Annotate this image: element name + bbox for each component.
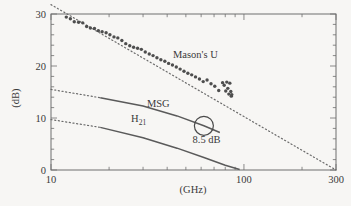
data-point <box>81 21 84 24</box>
data-point <box>120 39 123 42</box>
data-point <box>194 75 197 78</box>
data-point <box>229 90 232 93</box>
data-point <box>73 20 76 23</box>
data-point <box>116 36 119 39</box>
data-point <box>140 48 143 51</box>
data-point <box>205 78 208 81</box>
chart-figure: 10100300 0102030 (GHz) (dB) Mason's UMSG… <box>0 0 351 206</box>
data-point <box>132 46 135 49</box>
data-point <box>202 80 205 83</box>
x-axis-title: (GHz) <box>180 184 207 196</box>
data-point <box>100 30 103 33</box>
data-point <box>226 87 229 90</box>
data-point <box>69 17 72 20</box>
data-point <box>136 47 139 50</box>
data-point <box>178 67 181 70</box>
data-point <box>222 84 225 87</box>
data-point <box>108 33 111 36</box>
data-point <box>225 80 228 83</box>
data-point <box>209 82 212 85</box>
data-point <box>148 52 151 55</box>
data-point <box>175 65 178 68</box>
data-point <box>89 26 92 29</box>
data-point <box>104 31 107 34</box>
x-tick-label: 300 <box>328 174 344 185</box>
data-point <box>128 44 131 47</box>
data-point <box>151 54 154 57</box>
data-point <box>167 62 170 65</box>
data-point <box>228 81 231 84</box>
data-point <box>93 27 96 30</box>
x-tick-label: 100 <box>236 174 252 185</box>
data-point <box>144 50 147 53</box>
gain-callout-label: 8.5 dB <box>193 134 221 145</box>
data-point <box>171 63 174 66</box>
data-point <box>182 70 185 73</box>
data-point <box>159 58 162 61</box>
data-point <box>77 21 80 24</box>
data-point <box>97 29 100 32</box>
y-axis-title: (dB) <box>10 88 22 108</box>
x-tick-label: 10 <box>46 174 57 185</box>
y-tick-label: 20 <box>36 61 47 72</box>
chart-canvas: 10100300 0102030 (GHz) (dB) Mason's UMSG… <box>0 0 351 206</box>
y-tick-label: 10 <box>36 113 47 124</box>
data-point <box>217 89 220 92</box>
masons-u-label: Mason's U <box>173 49 218 60</box>
data-point <box>155 56 158 59</box>
data-point <box>230 93 233 96</box>
y-tick-label: 0 <box>41 165 46 176</box>
h21-label-subscript: 21 <box>139 118 147 127</box>
data-point <box>85 25 88 28</box>
data-point <box>163 60 166 63</box>
data-point <box>186 72 189 75</box>
msg-label: MSG <box>147 98 170 109</box>
data-point <box>124 42 127 45</box>
y-tick-label: 30 <box>36 9 47 20</box>
data-point <box>65 15 68 18</box>
data-point <box>190 73 193 76</box>
data-point <box>198 77 201 80</box>
data-point <box>112 35 115 38</box>
data-point <box>213 85 216 88</box>
